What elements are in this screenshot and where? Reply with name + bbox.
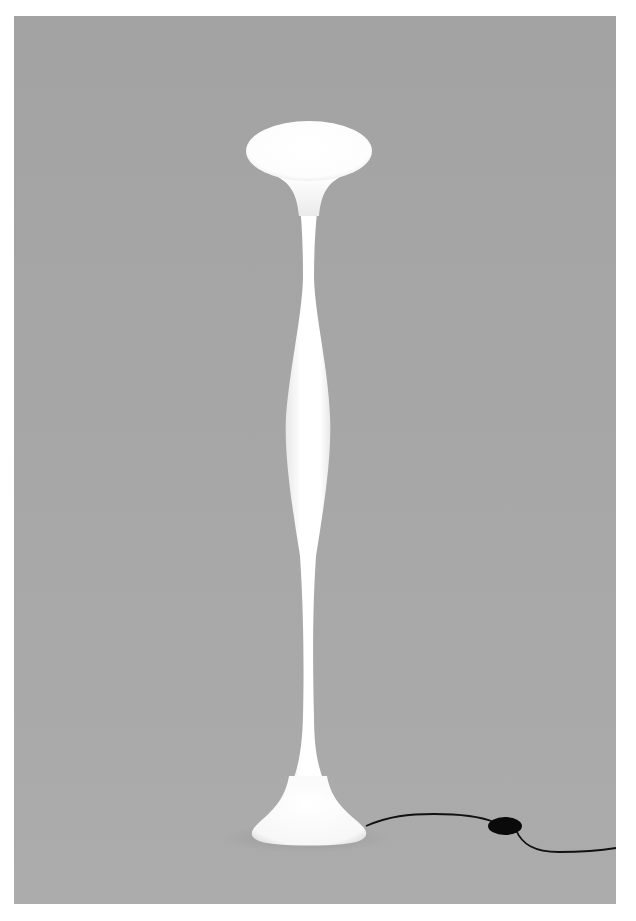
cord-switch — [488, 817, 522, 835]
lamp-photo — [14, 16, 616, 904]
lamp-top-disc — [246, 121, 372, 181]
floor-lamp-illustration — [14, 16, 616, 904]
